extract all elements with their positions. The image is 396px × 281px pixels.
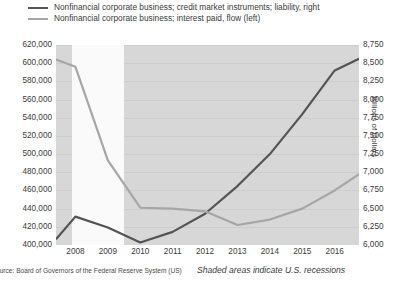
series-line <box>56 60 359 225</box>
y-axis-left-tick: 440,000 <box>22 205 52 213</box>
x-axis-tick: 2008 <box>66 247 84 257</box>
x-axis-tick: 2011 <box>164 247 182 257</box>
x-axis-tick: 2015 <box>293 247 311 257</box>
legend-label: Nonfinancial corporate business; credit … <box>54 2 319 13</box>
y-axis-left-tick: 520,000 <box>22 132 52 140</box>
x-axis-tick: 2013 <box>228 247 246 257</box>
y-axis-right-tick: 6,000 <box>363 241 384 249</box>
x-axis-tick: 2014 <box>261 247 279 257</box>
y-axis-left-tick: 400,000 <box>22 241 52 249</box>
chart-footer: ource: Board of Governors of the Federal… <box>0 266 396 280</box>
x-axis-tick: 2016 <box>326 247 344 257</box>
legend-item-credit-market-instruments: Nonfinancial corporate business; credit … <box>28 2 358 13</box>
y-axis-right-tick: 7,000 <box>363 168 384 176</box>
y-axis-right-tick: 8,250 <box>363 77 384 85</box>
recession-note: Shaded areas indicate U.S. recessions <box>197 265 345 276</box>
y-axis-right-tick: 8,750 <box>363 41 384 49</box>
y-axis-right-tick: 6,500 <box>363 205 384 213</box>
line-swatch-dark-icon <box>28 7 48 9</box>
series-lines <box>56 45 359 245</box>
plot-area <box>56 45 359 245</box>
y-axis-right-tick: 6,250 <box>363 223 384 231</box>
y-axis-left-tick: 620,000 <box>22 41 52 49</box>
y-axis-left-tick: 560,000 <box>22 96 52 104</box>
y-axis-right-tick: 6,750 <box>363 186 384 194</box>
y-axis-left-tick: 480,000 <box>22 168 52 176</box>
y-axis-left-tick: 500,000 <box>22 150 52 158</box>
y-axis-left-tick: 600,000 <box>22 59 52 67</box>
y-axis-left-tick: 460,000 <box>22 186 52 194</box>
y-axis-left-tick: 420,000 <box>22 223 52 231</box>
y-axis-right-title: Billions of Dollars <box>370 96 379 157</box>
y-axis-left: 620,000600,000580,000560,000540,000520,0… <box>0 45 52 245</box>
line-swatch-light-icon <box>28 18 48 20</box>
y-axis-left-tick: 540,000 <box>22 114 52 122</box>
x-axis: 200820092010201120122013201420152016 <box>56 247 359 259</box>
source-note: ource: Board of Governors of the Federal… <box>0 266 182 276</box>
fred-chart: Nonfinancial corporate business; credit … <box>0 0 396 281</box>
x-axis-tick: 2010 <box>131 247 149 257</box>
legend-label: Nonfinancial corporate business; interes… <box>54 13 260 24</box>
chart-legend: Nonfinancial corporate business; credit … <box>28 2 358 24</box>
y-axis-left-tick: 580,000 <box>22 77 52 85</box>
x-axis-tick: 2012 <box>196 247 214 257</box>
series-line <box>56 59 359 243</box>
y-axis-right-tick: 8,500 <box>363 59 384 67</box>
legend-item-interest-paid: Nonfinancial corporate business; interes… <box>28 13 358 24</box>
x-axis-tick: 2009 <box>99 247 117 257</box>
